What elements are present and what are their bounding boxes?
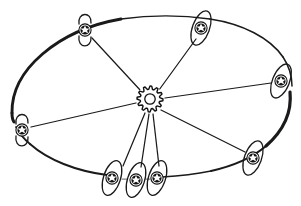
node-left-orbit-upper: [16, 114, 28, 124]
spoke-hub-to-node-bottom-right: [161, 110, 245, 152]
node-bottom-right[interactable]: [239, 138, 267, 178]
node-top-left[interactable]: [79, 14, 91, 45]
ring-arc-right-lower: [266, 92, 290, 146]
topology-canvas: [0, 0, 301, 206]
spoke-hub-to-node-bottom-a: [123, 113, 145, 166]
node-top-left-orbit-lower: [79, 36, 91, 46]
network-topology-diagram: [0, 0, 301, 206]
spoke-hub-to-node-right: [165, 83, 271, 98]
spoke-hub-to-node-left: [31, 103, 136, 127]
spoke-hub-to-node-bottom-b: [141, 114, 149, 167]
ring-arc-bottom-left: [30, 144, 107, 175]
node-bottom-left-cluster[interactable]: [98, 158, 125, 197]
spoke-hub-to-node-top-left: [92, 38, 141, 91]
ring-arc-top-left: [12, 19, 121, 113]
gear-center-hole: [145, 94, 155, 104]
node-bottom-right-cluster[interactable]: [143, 158, 170, 197]
ring-arc-left-upper: [12, 113, 14, 122]
ring-arc-top-center-right: [210, 19, 283, 57]
ring-arc-bottom-center: [162, 171, 211, 177]
node-top-left-orbit-upper: [79, 14, 91, 24]
node-bottom-center-cluster[interactable]: [122, 160, 149, 199]
node-top-right[interactable]: [187, 8, 215, 48]
central-gear-hub[interactable]: [137, 86, 164, 113]
spoke-hub-to-node-bottom-c: [153, 114, 159, 166]
spoke-hub-to-node-top-right: [159, 39, 196, 90]
